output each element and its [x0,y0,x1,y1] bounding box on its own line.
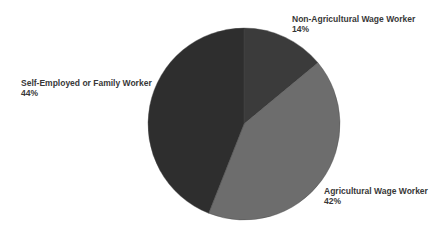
label-self-employed-or-family-worker: Self-Employed or Family Worker 44% [21,79,152,98]
label-percent: 14% [292,25,415,35]
label-name: Non-Agricultural Wage Worker [292,15,415,25]
label-percent: 42% [324,197,428,207]
label-agricultural-wage-worker: Agricultural Wage Worker 42% [324,187,428,206]
label-non-agricultural-wage-worker: Non-Agricultural Wage Worker 14% [292,15,415,34]
pie-slices [148,28,340,220]
label-name: Self-Employed or Family Worker [21,79,152,89]
label-percent: 44% [21,89,152,99]
